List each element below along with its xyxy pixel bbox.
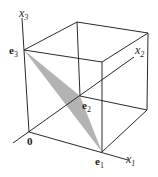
x2-axis: [13, 57, 134, 143]
x3-label: x3: [18, 6, 28, 22]
x2-label: x2: [134, 43, 144, 59]
cube-edge: [147, 33, 148, 110]
cube-edge: [77, 22, 148, 33]
shaded-simplex: [24, 50, 102, 152]
x1-label: x1: [125, 152, 135, 168]
e1-label: e1: [95, 155, 104, 170]
cube-edge: [102, 110, 147, 152]
cube-edge: [24, 22, 77, 50]
x3-axis: [22, 18, 29, 132]
origin-label: 0: [27, 135, 33, 147]
x1-axis: [29, 132, 128, 160]
e3-label: e3: [9, 44, 18, 59]
unit-cube-diagram: x3 x2 x1 0 e1 e2 e3: [0, 0, 158, 177]
